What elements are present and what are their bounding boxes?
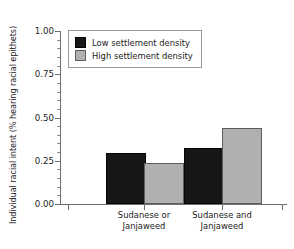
- y-tick-minor: [57, 195, 60, 196]
- bar: [144, 163, 184, 204]
- y-tick-minor: [57, 57, 60, 58]
- y-tick-minor: [57, 48, 60, 49]
- y-axis-line: [60, 31, 61, 204]
- y-tick-major: [55, 118, 60, 119]
- x-category-label: Sudanese andJanjaweed: [192, 210, 251, 232]
- y-tick-major: [55, 74, 60, 75]
- y-tick-label: 0.75: [22, 69, 54, 79]
- y-tick-label: 0.50: [22, 113, 54, 123]
- legend-item-high-settlement-density: High settlement density: [75, 49, 193, 62]
- y-tick-minor: [57, 83, 60, 84]
- bar: [106, 153, 146, 204]
- legend-swatch-icon-high: [75, 50, 86, 61]
- bar: [222, 128, 262, 204]
- y-tick-minor: [57, 66, 60, 67]
- chart-legend: Low settlement density High settlement d…: [68, 30, 202, 68]
- x-category-label-line: Janjaweed: [192, 221, 251, 232]
- x-category-label-line: Sudanese and: [192, 210, 251, 221]
- legend-item-low-settlement-density: Low settlement density: [75, 36, 193, 49]
- bar: [184, 148, 224, 204]
- y-tick-minor: [57, 126, 60, 127]
- y-tick-minor: [57, 109, 60, 110]
- x-category-label-line: Janjaweed: [118, 221, 170, 232]
- legend-label-low: Low settlement density: [92, 38, 190, 48]
- x-axis-line: [60, 204, 287, 205]
- x-category-label: Sudanese orJanjaweed: [118, 210, 170, 232]
- y-tick-major: [55, 31, 60, 32]
- y-axis-title: Individual racial intent (% hearing raci…: [8, 25, 18, 223]
- y-tick-major: [55, 161, 60, 162]
- y-tick-minor: [57, 187, 60, 188]
- y-tick-label: 0.00: [22, 199, 54, 209]
- y-tick-minor: [57, 40, 60, 41]
- y-tick-minor: [57, 178, 60, 179]
- y-tick-minor: [57, 169, 60, 170]
- y-tick-minor: [57, 143, 60, 144]
- legend-label-high: High settlement density: [92, 51, 193, 61]
- y-tick-minor: [57, 152, 60, 153]
- bar-chart-figure: Individual racial intent (% hearing raci…: [0, 0, 294, 249]
- legend-swatch-icon-low: [75, 37, 86, 48]
- y-tick-minor: [57, 92, 60, 93]
- x-category-label-line: Sudanese or: [118, 210, 170, 221]
- y-tick-minor: [57, 100, 60, 101]
- x-axis-category-labels: Sudanese orJanjaweedSudanese andJanjawee…: [60, 210, 287, 246]
- y-tick-minor: [57, 135, 60, 136]
- y-axis-tick-labels: 0.000.250.500.751.00: [22, 0, 54, 249]
- y-tick-label: 1.00: [22, 26, 54, 36]
- y-tick-major: [55, 204, 60, 205]
- y-tick-label: 0.25: [22, 156, 54, 166]
